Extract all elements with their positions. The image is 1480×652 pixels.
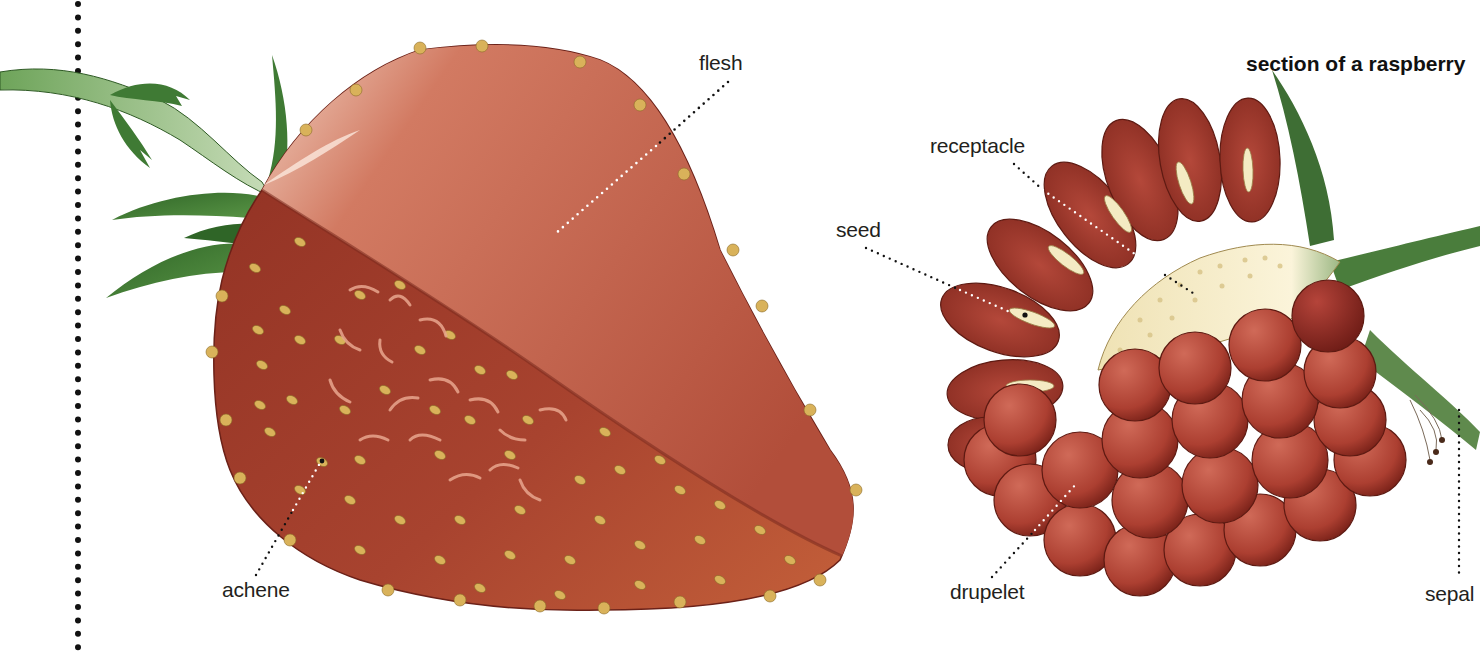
label-sepal: sepal: [1425, 582, 1474, 606]
strawberry-illustration: [0, 40, 862, 614]
label-achene: achene: [222, 578, 290, 602]
label-flesh: flesh: [699, 51, 742, 75]
label-drupelet: drupelet: [950, 580, 1024, 604]
diagram-stage: section of a raspberry flesh achene rece…: [0, 0, 1480, 652]
label-seed: seed: [836, 218, 881, 242]
label-receptacle: receptacle: [930, 134, 1025, 158]
diagram-title: section of a raspberry: [1246, 52, 1465, 76]
